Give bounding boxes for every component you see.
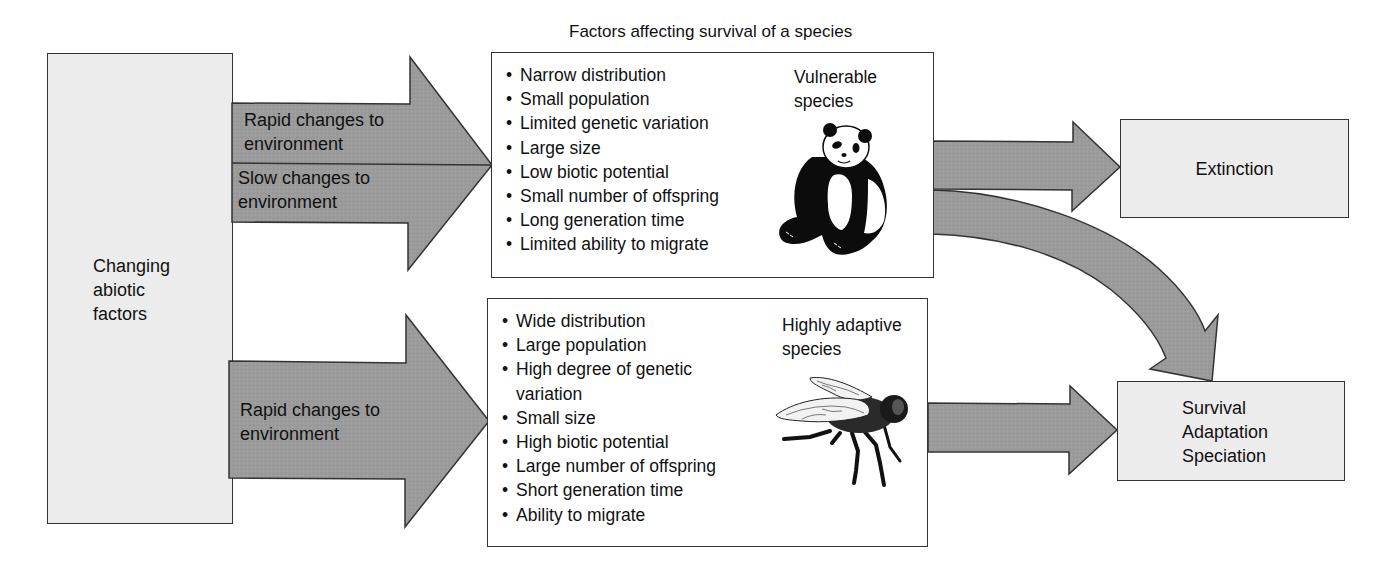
list-item: Ability to migrate [502, 503, 716, 527]
list-item: Large size [506, 136, 719, 160]
list-item: Short generation time [502, 478, 716, 502]
survival-label: Survival Adaptation Speciation [1182, 396, 1268, 468]
list-item: Large population [502, 333, 716, 357]
list-item: Small population [506, 87, 719, 111]
list-item: Large number of offspring [502, 454, 716, 478]
adaptive-species-box: Wide distribution Large population High … [487, 298, 928, 547]
panda-icon [772, 117, 912, 257]
vulnerable-factors-list: Narrow distribution Small population Lim… [506, 63, 719, 257]
list-item: High degree of genetic variation [502, 357, 716, 405]
list-item: Small number of offspring [506, 184, 719, 208]
fly-icon [772, 373, 922, 503]
list-item: Limited genetic variation [506, 111, 719, 135]
list-item: High biotic potential [502, 430, 716, 454]
list-item: Narrow distribution [506, 63, 719, 87]
arrow-to-survival-icon [928, 386, 1117, 474]
curved-arrow-to-survival-icon [932, 190, 1218, 381]
extinction-label: Extinction [1195, 157, 1273, 181]
list-item: Limited ability to migrate [506, 232, 719, 256]
top-arrow-icon [232, 57, 492, 270]
rapid-changes-bottom-label: Rapid changes to environment [240, 398, 380, 446]
vulnerable-species-heading: Vulnerable species [794, 65, 877, 113]
list-item: Small size [502, 406, 716, 430]
slow-changes-label: Slow changes to environment [238, 166, 370, 214]
list-item: Wide distribution [502, 309, 716, 333]
survival-box: Survival Adaptation Speciation [1117, 381, 1345, 481]
adaptive-species-heading: Highly adaptive species [782, 313, 902, 361]
rapid-changes-top-label: Rapid changes to environment [244, 108, 384, 156]
list-item: Long generation time [506, 208, 719, 232]
list-item: Low biotic potential [506, 160, 719, 184]
adaptive-factors-list: Wide distribution Large population High … [502, 309, 716, 527]
vulnerable-species-box: Narrow distribution Small population Lim… [491, 52, 934, 278]
extinction-box: Extinction [1120, 119, 1349, 218]
